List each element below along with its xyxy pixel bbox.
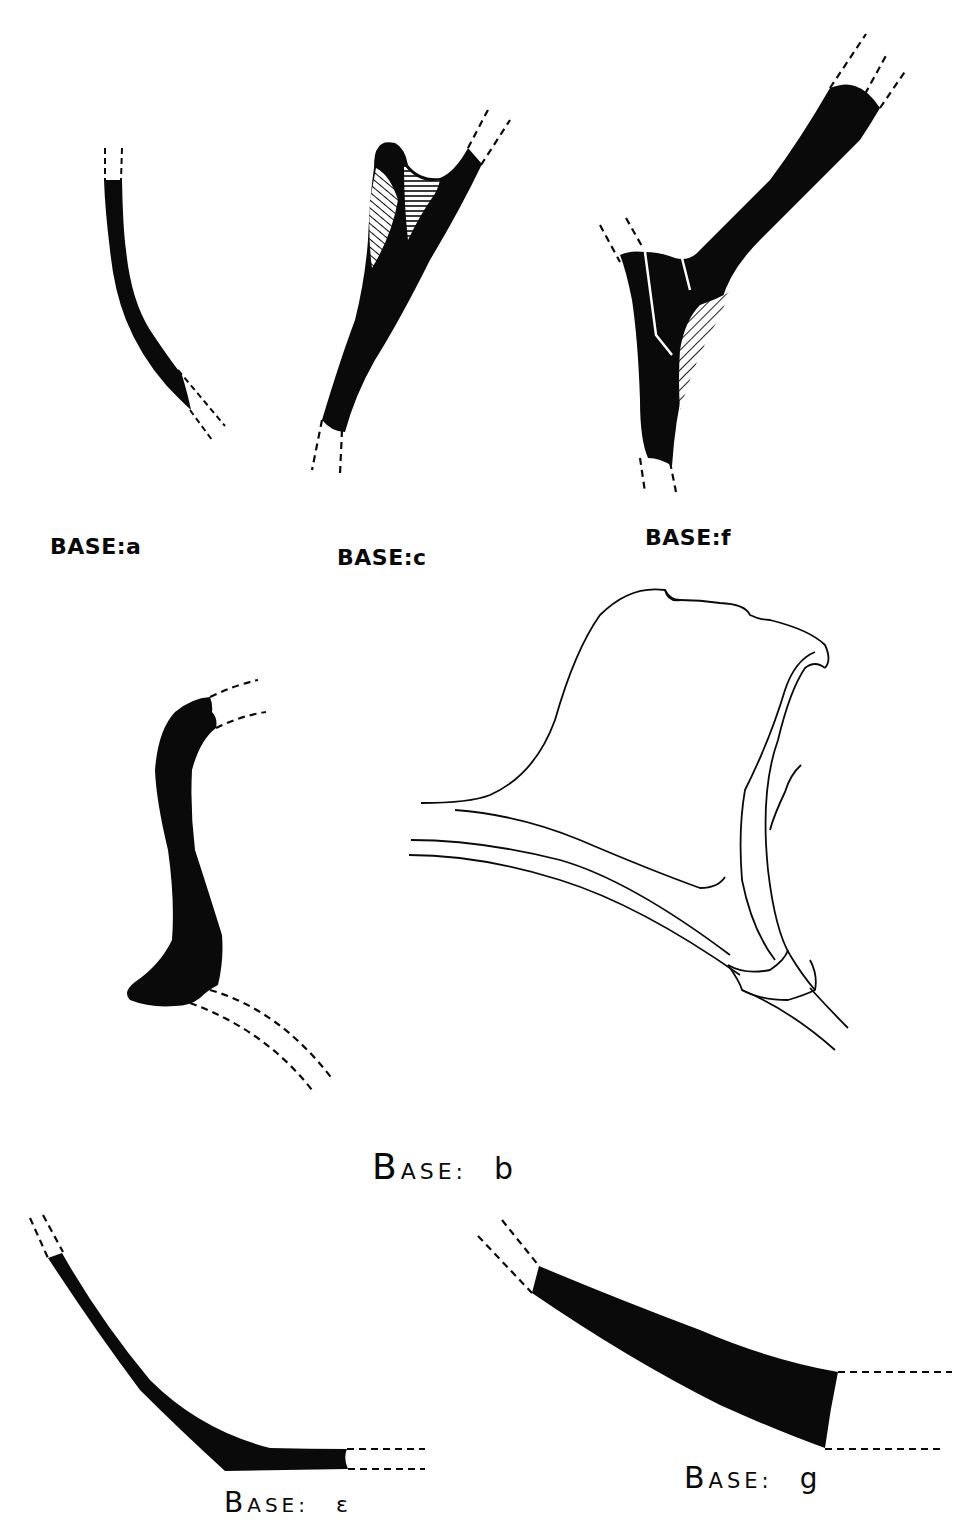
label-base-b-letter: b <box>494 1151 517 1186</box>
label-base-g-word: ASE: <box>709 1469 773 1493</box>
base-b-profile <box>127 680 333 1090</box>
label-base-g-initial: B <box>684 1460 709 1495</box>
label-base-e-word: ASE: <box>247 1493 309 1517</box>
label-base-g-letter: g <box>800 1462 822 1495</box>
label-base-a: BASE:a <box>50 534 141 559</box>
label-base-b-initial: B <box>372 1146 401 1187</box>
base-g-profile <box>478 1220 952 1449</box>
label-base-e-initial: B <box>224 1486 247 1519</box>
label-base-g: BASE: g <box>684 1460 822 1495</box>
label-base-e-letter: ε <box>336 1492 352 1517</box>
drawing-plate <box>0 0 980 1530</box>
label-base-c: BASE:c <box>337 545 427 570</box>
label-base-b-word: ASE: <box>401 1159 467 1184</box>
label-base-b: BASE: b <box>372 1146 517 1187</box>
base-f-profile <box>600 34 906 492</box>
label-base-f: BASE:f <box>645 525 731 550</box>
base-a-profile <box>104 148 225 440</box>
base-b-outline-drawing <box>409 589 848 1050</box>
base-e-profile <box>30 1215 425 1471</box>
base-c-profile <box>312 106 510 474</box>
label-base-e: BASE: ε <box>224 1484 352 1519</box>
